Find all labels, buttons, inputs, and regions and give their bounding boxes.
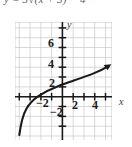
y-tick-label-6: 6 bbox=[48, 36, 54, 51]
equation-caption: y = 3√(x + 3) − 4 bbox=[4, 0, 86, 5]
x-tick-label-4: 4 bbox=[92, 98, 98, 113]
graph-figure: y = 3√(x + 3) − 4 bbox=[0, 0, 132, 147]
y-axis-label: y bbox=[67, 19, 71, 30]
y-axis bbox=[59, 22, 67, 140]
equation-text: y = 3√(x + 3) − 4 bbox=[4, 0, 86, 5]
grid-lines bbox=[15, 22, 112, 140]
coordinate-plane bbox=[15, 22, 112, 140]
x-tick-label-neg-2: −2 bbox=[36, 96, 49, 111]
y-tick-label-neg-2: −2 bbox=[50, 105, 63, 120]
x-tick-label-2: 2 bbox=[72, 98, 78, 113]
y-tick-label-2: 2 bbox=[49, 76, 55, 91]
x-axis-label: x bbox=[119, 96, 123, 107]
y-tick-label-4: 4 bbox=[48, 57, 54, 72]
